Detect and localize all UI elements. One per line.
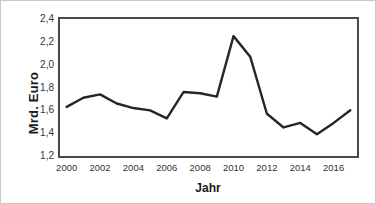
x-tick-label: 2016	[314, 162, 354, 173]
x-axis-title: Jahr	[58, 181, 358, 195]
chart-figure: Mrd. Euro 1,21,41,61,82,02,22,4 20002002…	[0, 0, 376, 204]
x-axis-tick-labels: 200020022004200620082010201220142016	[1, 1, 376, 204]
